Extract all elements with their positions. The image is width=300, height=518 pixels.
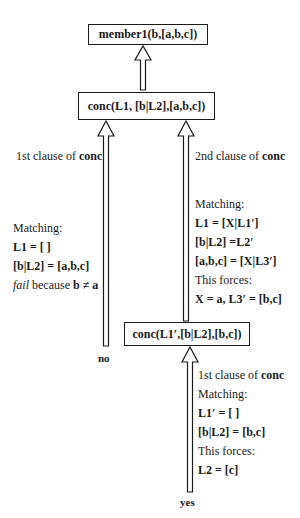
left-matching-label: Matching:	[13, 219, 98, 238]
right-matching-block: Matching: L1 = [X|L1′] [b|L2] =L2′ [a,b,…	[195, 195, 282, 309]
right-clause-label: 2nd clause of conc	[195, 147, 285, 166]
arrow-bottom-branch	[182, 347, 198, 492]
bottom-matching-label: Matching:	[198, 385, 284, 404]
left-clause-label: 1st clause of conc	[16, 147, 102, 166]
result-no: no	[98, 352, 110, 364]
bottom-forces-expr: L2 = [c]	[198, 461, 284, 480]
right-eq2: [b|L2] =L2′	[195, 233, 282, 252]
goal-conc1-box: conc(L1, [b|L2],[a,b,c])	[78, 92, 215, 120]
goal-root-text: member1(b,[a,b,c])	[99, 27, 197, 42]
arrow-right-branch	[178, 121, 194, 321]
left-eq2: [b|L2] = [a,b,c]	[13, 257, 98, 276]
arrow-to-root	[135, 46, 151, 90]
bottom-eq1: L1′ = [ ]	[198, 404, 284, 423]
bottom-clause-label: 1st clause of conc	[198, 366, 284, 385]
right-eq3: [a,b,c] = [X|L3′]	[195, 252, 282, 271]
left-matching-block: Matching: L1 = [ ] [b|L2] = [a,b,c] fail…	[13, 219, 98, 295]
right-forces-expr: X = a, L3′ = [b,c]	[195, 290, 282, 309]
bottom-forces-label: This forces:	[198, 442, 284, 461]
right-forces-label: This forces:	[195, 271, 282, 290]
goal-root-box: member1(b,[a,b,c])	[88, 24, 208, 45]
left-fail-line: fail because b ≠ a	[13, 276, 98, 295]
goal-conc2-text: conc(L1′,[b|L2],[b,c])	[132, 327, 241, 342]
goal-conc2-box: conc(L1′,[b|L2],[b,c])	[124, 322, 250, 346]
goal-conc1-text: conc(L1, [b|L2],[a,b,c])	[88, 99, 206, 114]
result-yes: yes	[180, 496, 195, 508]
left-eq1: L1 = [ ]	[13, 238, 98, 257]
right-eq1: L1 = [X|L1′]	[195, 214, 282, 233]
bottom-eq2: [b|L2] = [b,c]	[198, 423, 284, 442]
right-matching-label: Matching:	[195, 195, 282, 214]
bottom-matching-block: 1st clause of conc Matching: L1′ = [ ] […	[198, 366, 284, 480]
